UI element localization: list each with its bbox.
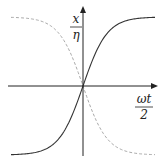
y-label-denominator: η — [72, 28, 80, 42]
x-axis-arrow-icon — [151, 83, 158, 89]
y-axis-arrow-icon — [80, 6, 86, 13]
x-axis-label: ωt 2 — [135, 92, 153, 122]
y-label-numerator: x — [73, 12, 80, 26]
x-label-numerator: ωt — [137, 92, 152, 106]
y-axis-label: x η — [70, 12, 82, 42]
figure: x η ωt 2 — [0, 0, 166, 163]
x-label-denominator: 2 — [139, 108, 148, 122]
plot-canvas: x η ωt 2 — [0, 0, 166, 163]
